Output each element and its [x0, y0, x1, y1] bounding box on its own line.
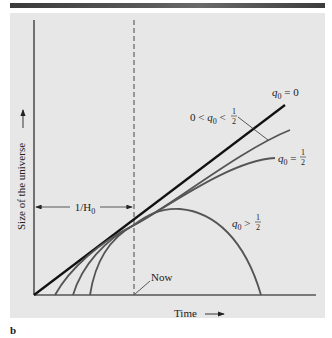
hubble-time-label: 1/H0: [75, 201, 96, 216]
label-q0-half-num: 1: [301, 148, 305, 157]
label-q0-between: 0 < q0 <: [190, 111, 226, 126]
now-label: Now: [151, 271, 172, 283]
leader-now: [135, 281, 150, 294]
label-q0-zero: q0 = 0: [272, 86, 299, 101]
label-q0-between-num: 1: [232, 107, 236, 116]
curve-q0-zero: [34, 105, 285, 295]
label-q0-half-den: 2: [301, 158, 305, 167]
label-q0-half: q0 =: [278, 152, 296, 167]
x-axis-label: Time: [174, 307, 197, 319]
y-axis-label: Size of the universe: [15, 143, 27, 230]
expansion-diagram: 1/H0 q0 = 0 0 < q0 < 1 2 q0 = 1 2 q0 > 1…: [0, 0, 332, 338]
label-q0-greater-num: 1: [256, 213, 260, 222]
label-q0-greater: q0 >: [232, 217, 250, 232]
panel-label: b: [10, 324, 16, 336]
label-q0-greater-den: 2: [256, 223, 260, 232]
label-q0-between-den: 2: [232, 117, 236, 126]
